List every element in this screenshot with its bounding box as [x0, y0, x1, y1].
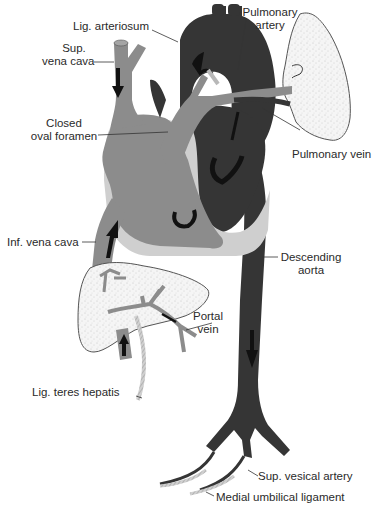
- postnatal-circulation-diagram: Lig. arteriosum Pulmonary artery Sup. ve…: [0, 0, 376, 510]
- label-inf-vena-cava: Inf. vena cava: [7, 236, 79, 249]
- label-pulmonary-artery-line1: Pulmonary: [230, 6, 310, 19]
- label-pulmonary-vein: Pulmonary vein: [292, 148, 371, 161]
- label-portal-vein: Portal vein: [188, 310, 228, 336]
- label-sup-vena-cava: Sup. vena cava: [42, 42, 92, 68]
- label-closed-oval-foramen-line2: oval foramen: [24, 130, 104, 143]
- label-pulmonary-artery-line2: artery: [230, 19, 310, 32]
- label-descending-aorta: Descending aorta: [276, 251, 346, 277]
- label-sup-vena-cava-line1: Sup.: [42, 42, 92, 55]
- label-sup-vesical-artery: Sup. vesical artery: [258, 470, 353, 483]
- label-pulmonary-artery: Pulmonary artery: [230, 6, 310, 32]
- label-closed-oval-foramen: Closed oval foramen: [24, 117, 104, 143]
- label-sup-vena-cava-line2: vena cava: [42, 55, 92, 68]
- label-portal-vein-line1: Portal: [188, 310, 228, 323]
- label-portal-vein-line2: vein: [188, 323, 228, 336]
- ligamentum-arteriosum: [208, 70, 218, 84]
- label-lig-teres-hepatis: Lig. teres hepatis: [32, 386, 120, 399]
- lung: [283, 13, 350, 140]
- medial-umbilical-ligaments: [160, 452, 244, 494]
- label-descending-aorta-line1: Descending: [276, 251, 346, 264]
- label-lig-arteriosum: Lig. arteriosum: [73, 20, 149, 33]
- label-closed-oval-foramen-line1: Closed: [24, 117, 104, 130]
- label-medial-umbilical-ligament: Medial umbilical ligament: [216, 491, 344, 504]
- label-descending-aorta-line2: aorta: [276, 264, 346, 277]
